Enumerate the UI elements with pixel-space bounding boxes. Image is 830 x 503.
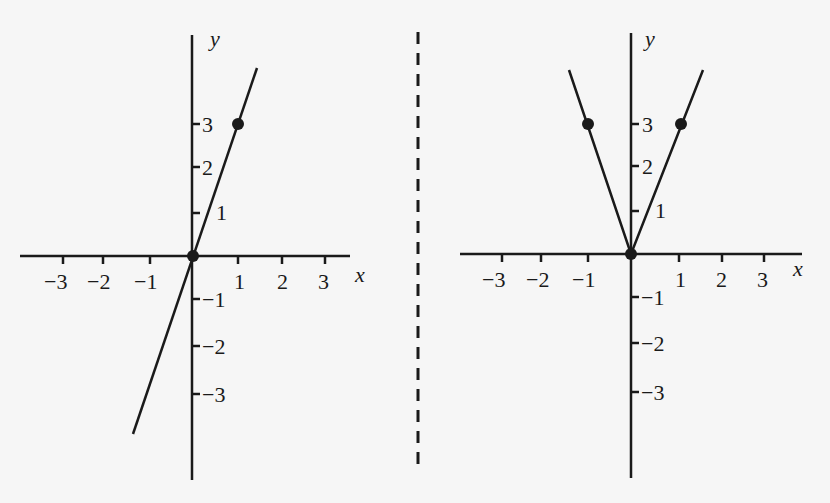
svg-text:1: 1 — [655, 198, 666, 223]
svg-text:3: 3 — [642, 112, 653, 137]
svg-text:−3: −3 — [641, 380, 664, 405]
svg-text:2: 2 — [277, 269, 288, 294]
right-line-y-equals-3-abs-x — [569, 70, 703, 254]
svg-text:1: 1 — [234, 269, 245, 294]
left-point-1-3 — [232, 118, 244, 130]
right-x-label: x — [792, 256, 803, 281]
graphs-figure: y x −3 −2 −1 1 2 3 1 2 3 −1 −2 −3 y x −3… — [0, 0, 830, 503]
svg-text:−1: −1 — [641, 285, 664, 310]
svg-text:−1: −1 — [202, 287, 225, 312]
svg-text:2: 2 — [716, 267, 727, 292]
svg-text:3: 3 — [757, 267, 768, 292]
right-point-1-3 — [675, 118, 687, 130]
svg-text:2: 2 — [642, 154, 653, 179]
svg-text:−1: −1 — [134, 269, 157, 294]
right-point-origin — [625, 248, 637, 260]
svg-text:2: 2 — [202, 155, 213, 180]
svg-text:−1: −1 — [572, 267, 595, 292]
svg-text:−2: −2 — [641, 331, 664, 356]
svg-text:3: 3 — [318, 269, 329, 294]
right-point-neg1-3 — [582, 118, 594, 130]
svg-text:−3: −3 — [44, 269, 67, 294]
svg-text:−2: −2 — [526, 267, 549, 292]
left-y-label: y — [208, 26, 220, 51]
svg-text:−2: −2 — [202, 334, 225, 359]
svg-text:1: 1 — [675, 267, 686, 292]
svg-text:3: 3 — [202, 112, 213, 137]
svg-text:−3: −3 — [482, 267, 505, 292]
left-point-origin — [187, 250, 199, 262]
right-y-label: y — [643, 26, 655, 51]
svg-text:−2: −2 — [87, 269, 110, 294]
svg-text:−3: −3 — [202, 382, 225, 407]
svg-text:1: 1 — [216, 200, 227, 225]
left-x-label: x — [354, 262, 365, 287]
